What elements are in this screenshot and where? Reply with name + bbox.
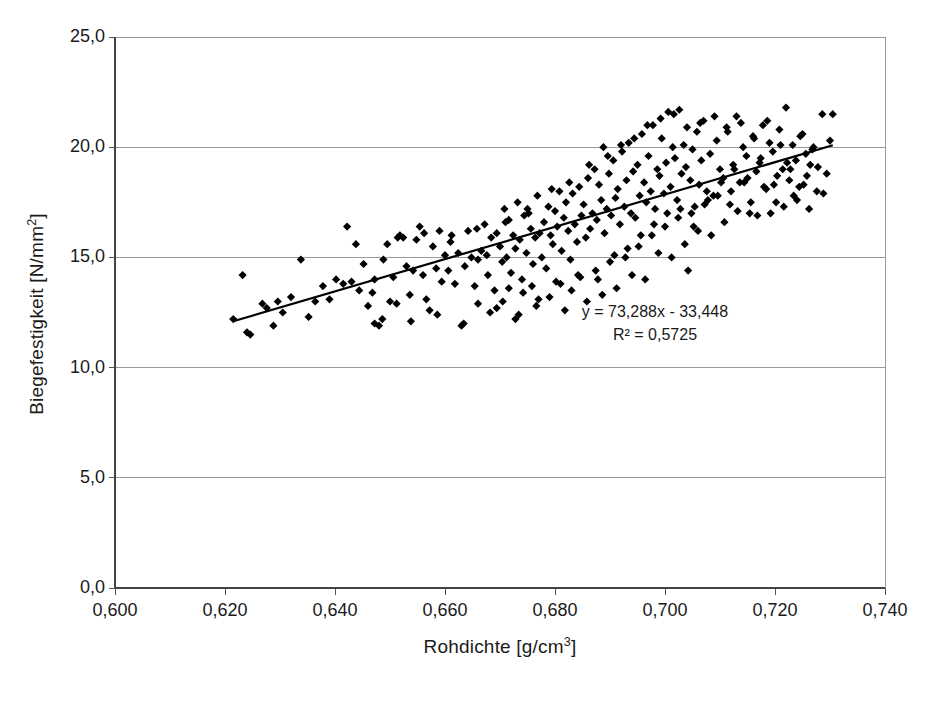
y-tick-label: 20,0 bbox=[20, 136, 105, 157]
x-tick-label: 0,660 bbox=[422, 600, 467, 621]
y-axis-title-tail: ] bbox=[26, 213, 47, 218]
y-tick-label: 10,0 bbox=[20, 357, 105, 378]
scatter-plot-canvas bbox=[0, 0, 932, 702]
x-tick-label: 0,620 bbox=[202, 600, 247, 621]
chart-figure: Biegefestigkeit [N/mm2] Rohdichte [g/cm3… bbox=[0, 0, 932, 702]
y-axis-title: Biegefestigkeit [N/mm2] bbox=[20, 34, 54, 594]
y-tick-label: 5,0 bbox=[20, 467, 105, 488]
y-tick-label: 15,0 bbox=[20, 246, 105, 267]
x-tick-label: 0,680 bbox=[532, 600, 577, 621]
x-axis-title-exponent: 3 bbox=[564, 635, 571, 649]
x-tick-label: 0,600 bbox=[92, 600, 137, 621]
y-tick-label: 0,0 bbox=[20, 577, 105, 598]
x-axis-title: Rohdichte [g/cm3] bbox=[115, 636, 885, 658]
regression-equation: y = 73,288x - 33,448 bbox=[530, 300, 780, 323]
x-tick-label: 0,740 bbox=[862, 600, 907, 621]
y-axis-title-exponent: 2 bbox=[25, 219, 39, 226]
x-axis-title-tail: ] bbox=[571, 636, 576, 657]
x-tick-label: 0,700 bbox=[642, 600, 687, 621]
r-squared-value: R² = 0,5725 bbox=[530, 323, 780, 346]
x-axis-title-text: Rohdichte [g/cm bbox=[424, 636, 564, 657]
trendline bbox=[233, 145, 833, 321]
x-tick-label: 0,640 bbox=[312, 600, 357, 621]
y-tick-label: 25,0 bbox=[20, 26, 105, 47]
x-tick-label: 0,720 bbox=[752, 600, 797, 621]
trendline-equation-annotation: y = 73,288x - 33,448 R² = 0,5725 bbox=[530, 300, 780, 346]
